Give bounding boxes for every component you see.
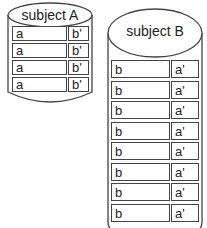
table-cell-right: a' — [171, 183, 199, 201]
table-cell-left: b — [111, 142, 170, 160]
table-cell-left: b — [111, 163, 170, 181]
table-cell-right: a' — [171, 163, 199, 181]
table-cell-left: b — [111, 60, 170, 78]
table-cell-right: b' — [68, 60, 89, 75]
table-cell-right: a' — [171, 142, 199, 160]
table-cell-left: b — [111, 101, 170, 119]
table-cell-right: a' — [171, 60, 199, 78]
subject-a-title: subject A — [8, 7, 92, 23]
table-cell-left: a — [12, 26, 67, 41]
table-cell-right: a' — [171, 81, 199, 99]
subject-b-title: subject B — [108, 23, 202, 39]
table-cell-right: a' — [171, 122, 199, 140]
table-cell-left: a — [12, 60, 67, 75]
table-cell-right: a' — [171, 204, 199, 222]
table-cell-left: b — [111, 183, 170, 201]
table-cell-left: b — [111, 122, 170, 140]
table-cell-right: b' — [68, 26, 89, 41]
table-cell-left: b — [111, 81, 170, 99]
table-cell-right: a' — [171, 101, 199, 119]
table-cell-left: a — [12, 77, 67, 92]
table-cell-left: b — [111, 204, 170, 222]
table-cell-right: b' — [68, 43, 89, 58]
table-cell-left: a — [12, 43, 67, 58]
table-cell-right: b' — [68, 77, 89, 92]
